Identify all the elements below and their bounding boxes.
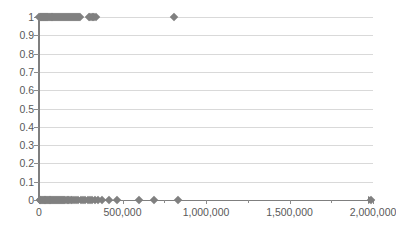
y-axis-tick: [34, 109, 39, 110]
x-axis-minor-tick: [248, 200, 249, 203]
gridline: [39, 90, 373, 91]
y-axis-tick-label: 0.9: [0, 30, 34, 40]
x-axis-minor-tick: [164, 200, 165, 203]
y-axis-tick-label: 0.4: [0, 122, 34, 132]
y-axis-tick: [34, 54, 39, 55]
x-axis-tick-label: 500,000: [104, 206, 142, 218]
y-axis-tick-label: 0.3: [0, 140, 34, 150]
gridline: [39, 35, 373, 36]
x-axis-tick-label: 1,000,000: [183, 206, 230, 218]
x-axis-tick-label: 0: [36, 206, 42, 218]
y-axis-tick: [34, 90, 39, 91]
y-axis-tick-label: 0.1: [0, 177, 34, 187]
y-axis-tick-label: 0.8: [0, 49, 34, 59]
y-axis-tick: [34, 145, 39, 146]
y-axis-tick-label: 0.5: [0, 104, 34, 114]
y-axis-labels: 10.90.80.70.60.50.40.30.20.10: [0, 0, 34, 232]
y-axis-tick: [34, 163, 39, 164]
y-axis-tick: [34, 182, 39, 183]
y-axis-tick-label: 0.7: [0, 67, 34, 77]
gridline: [39, 163, 373, 164]
x-axis-tick: [123, 200, 124, 204]
gridline: [39, 127, 373, 128]
plot-area: [39, 17, 373, 200]
y-axis-tick-label: 0.6: [0, 85, 34, 95]
x-axis-tick: [206, 200, 207, 204]
gridline: [39, 145, 373, 146]
y-axis-tick-label: 1: [0, 12, 34, 22]
x-axis-tick-label: 2,000,000: [350, 206, 396, 218]
y-axis-tick: [34, 72, 39, 73]
x-axis-tick: [290, 200, 291, 204]
gridline: [39, 109, 373, 110]
y-axis-tick: [34, 35, 39, 36]
x-axis-minor-tick: [331, 200, 332, 203]
y-axis-tick-label: 0.2: [0, 158, 34, 168]
gridline: [39, 182, 373, 183]
gridline: [39, 72, 373, 73]
y-axis-tick: [34, 127, 39, 128]
gridline: [39, 54, 373, 55]
y-axis-tick-label: 0: [0, 195, 34, 205]
x-axis-tick-label: 1,500,000: [266, 206, 313, 218]
